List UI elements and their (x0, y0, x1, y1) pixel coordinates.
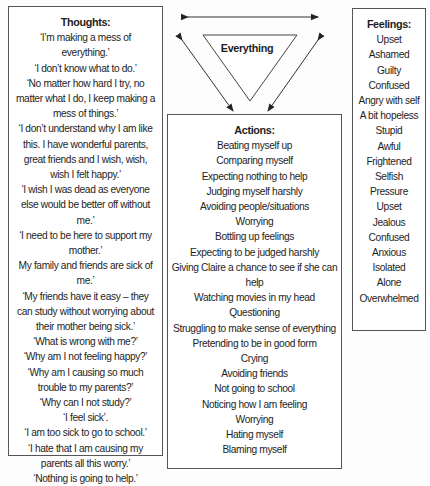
action-item: Blaming myself (170, 442, 339, 457)
feeling-item: Awful (354, 139, 424, 154)
action-item: Avoiding friends (170, 366, 339, 381)
action-item: Avoiding people/situations (170, 199, 339, 214)
actions-box: Actions: Beating myself upComparing myse… (167, 114, 342, 469)
thought-item: ‘No matter how hard I try, no matter wha… (13, 76, 158, 122)
thought-item: ‘I need to be here to support my mother.… (13, 228, 158, 258)
action-item: Pretending to be in good form (170, 336, 339, 351)
thoughts-box: Thoughts: ‘I’m making a mess of everythi… (8, 6, 163, 456)
feeling-item: Confused (354, 230, 424, 245)
thought-item: My family and friends are sick of me.’ (13, 258, 158, 288)
thoughts-list: ‘I’m making a mess of everything.’‘I don… (13, 30, 158, 486)
feeling-item: A bit hopeless (354, 108, 424, 123)
feeling-item: Frightened (354, 154, 424, 169)
action-item: Worrying (170, 214, 339, 229)
action-item: Questioning (170, 305, 339, 320)
action-item: Hating myself (170, 427, 339, 442)
feeling-item: Guilty (354, 63, 424, 78)
action-item: Watching movies in my head (170, 290, 339, 305)
feeling-item: Angry with self (354, 93, 424, 108)
feelings-title: Feelings: (354, 17, 424, 32)
actions-title: Actions: (170, 123, 339, 138)
feeling-item: Upset (354, 199, 424, 214)
action-item: Bottling up feelings (170, 229, 339, 244)
action-item: Comparing myself (170, 153, 339, 168)
thought-item: ‘Nothing is going to help.’ (13, 471, 158, 486)
feeling-item: Isolated (354, 260, 424, 275)
action-item: Not going to school (170, 381, 339, 396)
feeling-item: Jealous (354, 215, 424, 230)
thought-item: ‘I am too sick to go to school.’ (13, 425, 158, 440)
feeling-item: Overwhelmed (354, 291, 424, 306)
action-item: Crying (170, 351, 339, 366)
feeling-item: Selfish (354, 169, 424, 184)
thought-item: ‘I wish I was dead as everyone else woul… (13, 182, 158, 228)
thought-item: ‘I don’t know what to do.’ (13, 61, 158, 76)
feeling-item: Ashamed (354, 47, 424, 62)
action-item: Worrying (170, 412, 339, 427)
action-item: Expecting nothing to help (170, 169, 339, 184)
everything-label: Everything (210, 42, 284, 54)
feeling-item: Pressure (354, 184, 424, 199)
feeling-item: Stupid (354, 123, 424, 138)
action-item: Judging myself harshly (170, 184, 339, 199)
thought-item: ‘My friends have it easy – they can stud… (13, 289, 158, 335)
action-item: Struggling to make sense of everything (170, 321, 339, 336)
thought-item: ‘Why am I not feeling happy?’ (13, 349, 158, 364)
action-item: Expecting to be judged harshly (170, 245, 339, 260)
feeling-item: Alone (354, 275, 424, 290)
feelings-box: Feelings: UpsetAshamedGuiltyConfusedAngr… (352, 8, 426, 331)
feeling-item: Upset (354, 32, 424, 47)
thought-item: ‘I don’t understand why I am like this. … (13, 121, 158, 182)
thought-item: ‘I hate that I am causing my parents all… (13, 441, 158, 471)
action-item: Noticing how I am feeling (170, 397, 339, 412)
action-item: Giving Claire a chance to see if she can… (170, 260, 339, 290)
thoughts-title: Thoughts: (13, 15, 158, 30)
feelings-list: UpsetAshamedGuiltyConfusedAngry with sel… (354, 32, 424, 306)
action-item: Beating myself up (170, 138, 339, 153)
thought-item: ‘What is wrong with me?’ (13, 334, 158, 349)
feeling-item: Confused (354, 78, 424, 93)
thought-item: ‘Why am I causing so much trouble to my … (13, 365, 158, 395)
thought-item: ‘I’m making a mess of everything.’ (13, 30, 158, 60)
thought-item: ‘I feel sick’. (13, 410, 158, 425)
feeling-item: Anxious (354, 245, 424, 260)
thought-item: ‘Why can I not study?’ (13, 395, 158, 410)
actions-list: Beating myself upComparing myselfExpecti… (170, 138, 339, 457)
